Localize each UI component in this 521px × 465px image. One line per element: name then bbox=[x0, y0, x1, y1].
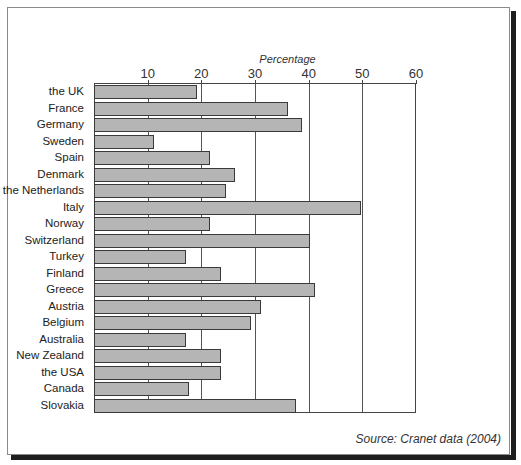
category-label: New Zealand bbox=[0, 348, 84, 362]
x-axis-title: Percentage bbox=[240, 53, 335, 65]
category-label: Turkey bbox=[0, 249, 84, 263]
bar-the-netherlands bbox=[94, 184, 226, 198]
bar-denmark bbox=[94, 168, 235, 182]
category-label: Sweden bbox=[0, 134, 84, 148]
bar-austria bbox=[94, 300, 261, 314]
gridline-50 bbox=[362, 84, 363, 412]
tick-label-30: 30 bbox=[240, 66, 270, 81]
tick-label-60: 60 bbox=[401, 66, 431, 81]
category-label: Austria bbox=[0, 299, 84, 313]
category-label: Australia bbox=[0, 332, 84, 346]
tick-mark-30 bbox=[255, 80, 256, 84]
plot-area bbox=[94, 83, 416, 413]
category-label: Belgium bbox=[0, 315, 84, 329]
bar-canada bbox=[94, 382, 189, 396]
frame-shadow-bottom bbox=[11, 455, 516, 460]
bar-sweden bbox=[94, 135, 154, 149]
tick-label-20: 20 bbox=[186, 66, 216, 81]
gridline-40 bbox=[309, 84, 310, 412]
category-label: Switzerland bbox=[0, 233, 84, 247]
category-label: the UK bbox=[0, 84, 84, 98]
gridline-30 bbox=[255, 84, 256, 412]
tick-mark-60 bbox=[416, 80, 417, 84]
category-label: Germany bbox=[0, 117, 84, 131]
tick-label-10: 10 bbox=[133, 66, 163, 81]
tick-mark-10 bbox=[148, 80, 149, 84]
tick-label-40: 40 bbox=[294, 66, 324, 81]
bar-germany bbox=[94, 118, 302, 132]
category-label: Denmark bbox=[0, 167, 84, 181]
bar-belgium bbox=[94, 316, 251, 330]
bar-italy bbox=[94, 201, 361, 215]
bar-new-zealand bbox=[94, 349, 221, 363]
category-label: Italy bbox=[0, 200, 84, 214]
bar-greece bbox=[94, 283, 315, 297]
tick-mark-50 bbox=[362, 80, 363, 84]
category-label: Canada bbox=[0, 381, 84, 395]
category-label: the Netherlands bbox=[0, 183, 84, 197]
bar-finland bbox=[94, 267, 221, 281]
source-note: Source: Cranet data (2004) bbox=[356, 432, 501, 446]
bar-switzerland bbox=[94, 234, 310, 248]
bar-australia bbox=[94, 333, 186, 347]
frame-shadow-right bbox=[511, 11, 516, 460]
category-label: Norway bbox=[0, 216, 84, 230]
bar-turkey bbox=[94, 250, 186, 264]
category-label: Spain bbox=[0, 150, 84, 164]
category-label: Greece bbox=[0, 282, 84, 296]
bar-the-uk bbox=[94, 85, 197, 99]
category-label: Finland bbox=[0, 266, 84, 280]
bar-france bbox=[94, 102, 288, 116]
category-label: the USA bbox=[0, 365, 84, 379]
tick-mark-40 bbox=[309, 80, 310, 84]
bar-slovakia bbox=[94, 399, 296, 413]
tick-label-50: 50 bbox=[347, 66, 377, 81]
tick-mark-20 bbox=[201, 80, 202, 84]
bar-spain bbox=[94, 151, 210, 165]
bar-the-usa bbox=[94, 366, 221, 380]
category-label: France bbox=[0, 101, 84, 115]
bar-norway bbox=[94, 217, 210, 231]
category-label: Slovakia bbox=[0, 398, 84, 412]
